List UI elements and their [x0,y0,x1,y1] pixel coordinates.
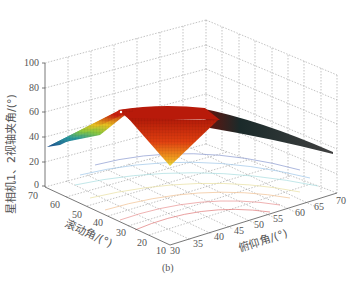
svg-text:40: 40 [29,131,39,142]
figure-caption: (b) [162,262,174,273]
svg-text:40: 40 [93,217,103,228]
svg-text:50: 50 [254,219,264,230]
svg-text:100: 100 [24,57,39,68]
svg-text:45: 45 [234,225,244,236]
y-axis-label: 滚动角/(°) [63,216,115,250]
svg-text:30: 30 [170,245,180,256]
svg-text:70: 70 [336,195,346,206]
surface-chart: 100 80 60 40 20 0 70 60 50 40 30 20 10 3… [0,0,356,285]
svg-text:70: 70 [28,190,38,201]
svg-text:35: 35 [193,238,203,249]
x-axis-label: 俯仰角/(°) [237,226,290,255]
svg-text:0: 0 [34,179,39,190]
svg-text:80: 80 [29,82,39,93]
svg-text:65: 65 [314,201,324,212]
svg-text:55: 55 [273,213,283,224]
surface [47,106,333,166]
svg-text:60: 60 [29,106,39,117]
svg-text:20: 20 [137,237,147,248]
z-axis-label: 星相机1、2视轴夹角/(°) [4,94,18,214]
svg-text:20: 20 [29,156,39,167]
svg-text:60: 60 [50,199,60,210]
peak-marker [120,111,122,113]
z-tick-labels: 100 80 60 40 20 0 [24,57,39,190]
svg-text:40: 40 [214,231,224,242]
svg-text:30: 30 [116,227,126,238]
svg-text:10: 10 [156,245,166,256]
svg-text:60: 60 [295,207,305,218]
